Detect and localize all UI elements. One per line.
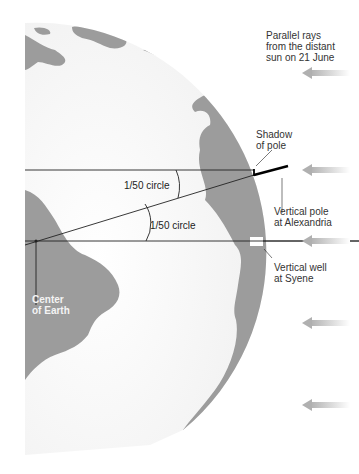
angle-label-upper: 1/50 circle xyxy=(124,180,170,191)
pole-at-alexandria xyxy=(254,166,288,176)
shadow-label: Shadow of pole xyxy=(256,129,292,151)
sun-ray-arrows xyxy=(302,67,350,411)
eratosthenes-diagram: Parallel rays from the distant sun on 21… xyxy=(0,0,359,474)
rays-label: Parallel rays from the distant sun on 21… xyxy=(266,30,335,63)
well-at-syene xyxy=(250,237,263,246)
diagram-graphics xyxy=(0,0,359,474)
center-point xyxy=(35,240,38,243)
shadow-leader xyxy=(256,150,272,166)
center-label: Center of Earth xyxy=(32,294,70,316)
pole-label: Vertical pole at Alexandria xyxy=(274,206,332,228)
angle-label-lower: 1/50 circle xyxy=(150,220,196,231)
well-label: Vertical well at Syene xyxy=(274,262,327,284)
